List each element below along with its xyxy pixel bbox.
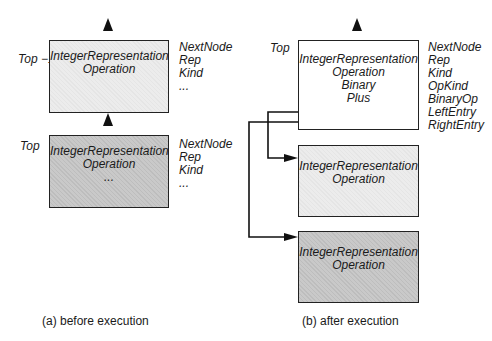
- field-list-top: NextNode Rep Kind ...: [179, 138, 232, 190]
- node-box-right-operand: IntegerRepresentation Operation: [298, 231, 419, 303]
- caption-before-execution: (a) before execution: [42, 314, 149, 328]
- field-name: ...: [179, 177, 232, 190]
- node-line: Plus: [299, 92, 418, 105]
- node-line: Operation: [299, 259, 418, 272]
- node-line: ...: [50, 171, 168, 184]
- node-line: Operation: [299, 173, 418, 186]
- diagram-canvas: Top −1 IntegerRepresentation Operation N…: [0, 0, 492, 341]
- stack-label-top-after: Top: [270, 41, 290, 55]
- node-box-binary-plus: IntegerRepresentation Operation Binary P…: [298, 40, 419, 130]
- field-list-after-top: NextNode Rep Kind OpKind BinaryOp LeftEn…: [428, 41, 484, 132]
- caption-after-execution: (b) after execution: [302, 314, 399, 328]
- node-box-top: IntegerRepresentation Operation ...: [49, 135, 169, 208]
- field-name: ...: [179, 80, 232, 93]
- field-list-top-minus-1: NextNode Rep Kind ...: [179, 41, 232, 93]
- node-line: Operation: [50, 63, 168, 76]
- node-box-left-operand: IntegerRepresentation Operation: [298, 145, 419, 217]
- stack-label-top: Top: [20, 139, 40, 153]
- field-name: RightEntry: [428, 119, 484, 132]
- node-box-top-minus-1: IntegerRepresentation Operation: [49, 40, 169, 113]
